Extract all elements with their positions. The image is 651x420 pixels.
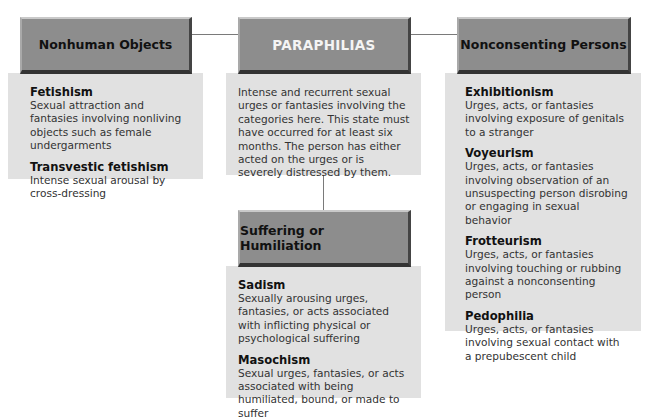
term-frotteurism: Frotteurism (465, 234, 629, 248)
term-pedophilia: Pedophilia (465, 309, 629, 323)
term-description: Urges, acts, or fantasies involving expo… (465, 99, 629, 139)
term-transvestic-fetishism: Transvestic fetishism (30, 160, 191, 174)
paraphilias-definition-panel: Intense and recurrent sexual urges or fa… (226, 73, 421, 175)
term-description: Sexual urges, fantasies, or acts associa… (238, 367, 409, 420)
category-title: Nonconsenting Persons (460, 37, 626, 52)
term-voyeurism: Voyeurism (465, 146, 629, 160)
paraphilias-description: Intense and recurrent sexual urges or fa… (238, 86, 411, 180)
term-description: Sexual attraction and fantasies involvin… (30, 99, 191, 153)
term-description: Sexually arousing urges, fantasies, or a… (238, 292, 409, 346)
term-sadism: Sadism (238, 278, 409, 292)
term-description: Urges, acts, or fantasies involving obse… (465, 160, 629, 227)
category-panel-nonhuman-objects: Fetishism Sexual attraction and fantasie… (8, 73, 203, 179)
term-description: Intense sexual arousal by cross-dressing (30, 174, 191, 201)
category-panel-suffering-humiliation: Sadism Sexually arousing urges, fantasie… (226, 266, 421, 398)
term-description: Urges, acts, or fantasies involving touc… (465, 248, 629, 302)
term-fetishism: Fetishism (30, 85, 191, 99)
category-title: Suffering or Humiliation (240, 223, 408, 253)
term-exhibitionism: Exhibitionism (465, 85, 629, 99)
category-panel-nonconsenting-persons: Exhibitionism Urges, acts, or fantasies … (445, 73, 641, 331)
term-masochism: Masochism (238, 353, 409, 367)
paraphilias-title: PARAPHILIAS (272, 37, 375, 53)
connector-down (323, 175, 324, 210)
category-header-nonhuman-objects: Nonhuman Objects (20, 17, 192, 74)
paraphilias-header: PARAPHILIAS (238, 17, 411, 74)
connector-right (410, 34, 457, 35)
connector-left (191, 34, 238, 35)
category-header-suffering-humiliation: Suffering or Humiliation (238, 210, 411, 267)
category-header-nonconsenting-persons: Nonconsenting Persons (457, 17, 631, 74)
term-description: Urges, acts, or fantasies involving sexu… (465, 323, 629, 363)
category-title: Nonhuman Objects (39, 37, 173, 52)
